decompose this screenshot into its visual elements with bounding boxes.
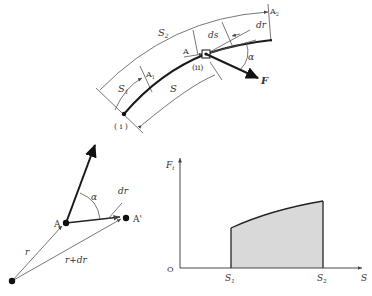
point-i-label: ( i ): [114, 122, 128, 131]
s-label: S: [170, 83, 177, 94]
a-prime-label: A': [132, 214, 142, 224]
s1-tick-label: S1: [225, 273, 235, 284]
a2-label: A2: [269, 7, 279, 17]
r-label: r: [25, 247, 30, 257]
alpha-arc: [240, 42, 248, 70]
alpha-label-left: α: [91, 192, 97, 202]
point-i-marker: [122, 112, 126, 116]
origin-point: [9, 278, 15, 284]
point-ii-tick: [210, 62, 222, 80]
a-label-left: A: [53, 219, 61, 229]
ds-label: ds: [208, 30, 219, 40]
path-diagram: S2 S1 S ds dr α F A A1 A2 ( i ) (ii): [96, 4, 279, 133]
r-vector: [12, 226, 62, 281]
force-label: F: [260, 75, 269, 86]
r-plus-dr-label: r+dr: [65, 255, 88, 265]
s-dimension-arc: [142, 75, 215, 125]
origin-label: O: [167, 265, 174, 274]
point-a: [63, 220, 69, 226]
a1-label: A1: [145, 70, 155, 80]
alpha-label-top: α: [248, 52, 254, 62]
x-axis-label: S: [361, 273, 367, 283]
force-direction-vector: [66, 145, 95, 223]
point-ii-label: (ii): [192, 63, 203, 72]
s2-tick-label: S2: [317, 273, 327, 284]
dr-label-left: dr: [118, 186, 129, 196]
s2-label: S2: [158, 27, 169, 39]
point-a-prime: [123, 215, 129, 221]
dr-label-top: dr: [256, 20, 267, 30]
vector-diagram: A A' α dr r r+dr: [9, 145, 142, 284]
a-label: A: [182, 47, 189, 56]
ds-tick-left: [193, 30, 198, 55]
ds-tick-right: [222, 22, 232, 45]
ft-vs-s-graph: Ft O S1 S2 S: [165, 158, 367, 284]
dr-vector: [66, 217, 120, 223]
s1-label: S1: [118, 83, 129, 95]
y-axis-label: Ft: [165, 160, 175, 171]
work-diagram: S2 S1 S ds dr α F A A1 A2 ( i ) (ii) A A…: [0, 0, 372, 296]
